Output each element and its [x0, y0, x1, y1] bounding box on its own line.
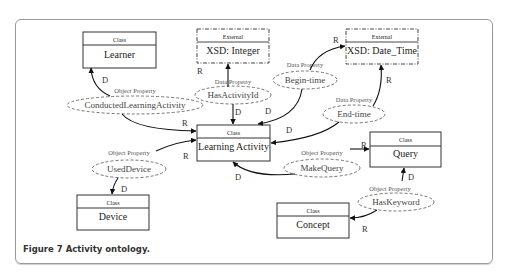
edge-label-domain: D [265, 106, 271, 116]
property-make-query[interactable]: Object Property MakeQuery [284, 149, 360, 177]
property-type: Object Property [114, 87, 156, 94]
edge-useddevice-range [156, 140, 196, 151]
property-has-keyword[interactable]: Object Property HasKeyword [358, 185, 434, 211]
class-name: Learning Activity [198, 141, 269, 152]
class-query[interactable]: Class Query [370, 132, 441, 167]
class-stereotype: Class [399, 137, 413, 143]
external-xsd-integer[interactable]: External XSD: Integer [197, 29, 269, 63]
class-stereotype: Class [227, 130, 241, 136]
class-name: Concept [296, 219, 330, 230]
property-conducted-learning-activity[interactable]: Object Property ConductedLearningActivit… [67, 87, 203, 114]
ontology-diagram: Class Learner External XSD: Integer Exte… [0, 0, 505, 276]
edge-label-range: R [197, 66, 203, 76]
figure-caption: Figure 7 Activity ontology. [23, 244, 150, 254]
property-name: HasKeyword [372, 197, 420, 207]
class-stereotype: Class [113, 37, 127, 43]
property-name: End-time [337, 109, 371, 119]
edge-label-domain: D [121, 184, 127, 194]
property-begin-time[interactable]: Data Property Begin-time [273, 61, 337, 89]
class-concept[interactable]: Class Concept [277, 203, 349, 238]
property-has-activity-id[interactable]: Data Property HasActivityId [195, 78, 271, 104]
property-name: HasActivityId [208, 90, 259, 100]
property-name: Begin-time [285, 75, 326, 85]
external-name: XSD: Date_Time [347, 45, 417, 56]
class-device[interactable]: Class Device [77, 195, 149, 230]
edge-useddevice-domain [112, 178, 118, 194]
class-learner[interactable]: Class Learner [83, 32, 156, 68]
property-name: UsedDevice [107, 164, 151, 174]
edge-label-range: R [183, 151, 189, 161]
edge-endtime-range [373, 65, 381, 106]
property-type: Object Property [369, 185, 411, 192]
property-type: Data Property [215, 78, 252, 85]
class-name: Learner [104, 49, 136, 60]
property-type: Object Property [108, 149, 150, 156]
class-stereotype: Class [306, 208, 320, 214]
edge-label-domain: D [235, 107, 241, 117]
edge-label-domain: D [235, 172, 241, 182]
external-name: XSD: Integer [206, 45, 260, 56]
edge-label-range: R [182, 118, 188, 128]
edge-haskeyword-range [350, 210, 377, 218]
property-type: Data Property [336, 96, 373, 103]
property-type: Data Property [287, 61, 324, 68]
edge-endtime-domain [271, 122, 339, 143]
external-xsd-date-time[interactable]: External XSD: Date_Time [346, 29, 418, 64]
edge-haskeyword-domain [402, 168, 404, 181]
class-learning-activity[interactable]: Class Learning Activity [197, 125, 270, 161]
edge-label-domain: D [102, 75, 108, 85]
property-type: Object Property [301, 149, 343, 156]
property-name: ConductedLearningActivity [85, 100, 186, 110]
edge-label-range: R [386, 75, 392, 85]
edge-label-range: R [362, 224, 368, 234]
class-stereotype: Class [106, 200, 120, 206]
edge-label-range: R [333, 35, 339, 45]
edge-label-domain: D [286, 125, 292, 135]
edge-label-range: R [361, 140, 367, 150]
edge-label-domain: D [408, 172, 414, 182]
property-used-device[interactable]: Object Property UsedDevice [92, 149, 166, 178]
class-name: Device [99, 211, 128, 222]
class-name: Query [393, 148, 418, 159]
property-name: MakeQuery [301, 163, 344, 173]
external-stereotype: External [372, 34, 393, 40]
external-stereotype: External [223, 34, 244, 40]
